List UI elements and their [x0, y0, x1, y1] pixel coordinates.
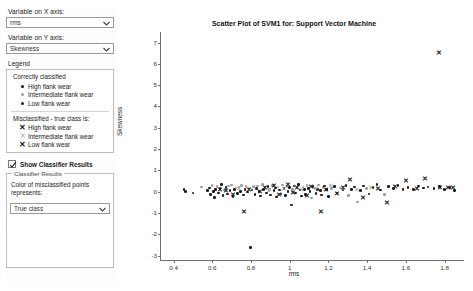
axis-line	[158, 64, 161, 65]
x-tick-label: 1	[280, 264, 300, 271]
data-point-x: ✕	[217, 187, 223, 194]
axis-line	[158, 234, 161, 235]
x-tick-label: 0.4	[164, 264, 184, 271]
data-point-dot	[315, 192, 318, 195]
data-point-x: ✕	[318, 209, 324, 216]
data-point-x: ✕	[392, 184, 398, 191]
y-tick-label: -2	[144, 230, 157, 237]
axis-line	[445, 260, 446, 263]
data-point-dot	[211, 184, 214, 187]
y-tick-label: -1	[144, 209, 157, 216]
show-classifier-results-checkbox[interactable]: Show Classifier Results	[8, 160, 117, 168]
y-tick-label: -3	[144, 252, 157, 259]
data-point-dot	[422, 187, 425, 190]
data-point-x: ✕	[450, 185, 456, 192]
data-point-x: ✕	[230, 192, 236, 199]
data-point-dot	[383, 193, 386, 196]
x-axis-value: rms	[7, 19, 21, 26]
chevron-down-icon	[102, 44, 111, 55]
y-tick-label: 5	[144, 81, 157, 88]
legend-item: Intermediate flank wear	[17, 91, 113, 100]
data-point-dot	[249, 246, 252, 249]
data-point-x: ✕	[313, 186, 319, 193]
axis-line	[160, 260, 464, 261]
data-point-x: ✕	[271, 183, 277, 190]
data-point-dot	[184, 190, 187, 193]
data-point-x: ✕	[334, 191, 340, 198]
dot-dark-icon	[17, 82, 28, 90]
data-point-dot	[407, 186, 410, 189]
y-tick-label: 3	[144, 124, 157, 131]
axis-line	[212, 260, 213, 263]
data-point-x: ✕	[368, 185, 374, 192]
data-point-dot	[220, 183, 223, 186]
legend-item-label: Low flank wear	[28, 100, 70, 107]
axis-line	[367, 260, 368, 263]
legend-correct-heading: Correctly classified	[13, 73, 113, 80]
data-point-x: ✕	[328, 183, 334, 190]
data-point-dot	[206, 189, 209, 192]
data-point-dot	[242, 194, 245, 197]
y-tick-label: 1	[144, 166, 157, 173]
controls-sidebar: Variable on X axis: rms Variable on Y ax…	[6, 8, 117, 285]
axis-line	[158, 213, 161, 214]
data-point-x: ✕	[340, 185, 346, 192]
y-tick-label: 2	[144, 145, 157, 152]
axis-line	[158, 256, 161, 257]
y-tick-label: 6	[144, 60, 157, 67]
data-point-x: ✕	[437, 185, 443, 192]
x-dark-icon: ✕	[17, 141, 28, 149]
x-axis-label: Variable on X axis:	[8, 8, 117, 15]
y-axis-select[interactable]: Skewness	[6, 43, 114, 54]
dot-gray-icon	[17, 91, 28, 99]
data-point-x: ✕	[403, 178, 409, 185]
legend-item-label: High flank wear	[28, 124, 71, 131]
scatter-plot-panel: Scatter Plot of SVM1 for: Support Vector…	[120, 8, 468, 285]
y-tick-label: 0	[144, 188, 157, 195]
y-axis-label: Variable on Y axis:	[8, 34, 117, 41]
legend-item-label: High flank wear	[28, 83, 71, 90]
data-point-dot	[200, 186, 203, 189]
legend-item: High flank wear	[17, 82, 113, 91]
data-point-x: ✕	[436, 50, 442, 57]
data-point-dot	[347, 194, 350, 197]
x-tick-label: 0.8	[241, 264, 261, 271]
axis-line	[158, 192, 161, 193]
plot-axes: -3-2-1012345670.40.60.811.21.41.61.8✕✕✕✕…	[120, 8, 468, 285]
axis-line	[328, 260, 329, 263]
axis-line	[290, 260, 291, 263]
dot-dark-icon	[17, 99, 28, 107]
data-point-x: ✕	[304, 193, 310, 200]
x-tick-label: 1.8	[435, 264, 455, 271]
axis-line	[174, 260, 175, 263]
chevron-down-icon	[98, 204, 107, 215]
x-tick-label: 1.6	[396, 264, 416, 271]
legend-item: Low flank wear	[17, 99, 113, 108]
data-point-dot	[387, 185, 390, 188]
data-point-x: ✕	[384, 200, 390, 207]
data-point-dot	[300, 195, 303, 198]
classifier-results-description: Color of misclassified points represents…	[11, 181, 109, 197]
data-point-dot	[427, 186, 430, 189]
axis-line	[158, 85, 161, 86]
data-point-x: ✕	[241, 209, 247, 216]
data-point-x: ✕	[375, 186, 381, 193]
data-point-dot	[208, 187, 211, 190]
y-axis-value: Skewness	[7, 45, 39, 52]
data-point-dot	[356, 201, 359, 204]
legend-item: ✕ High flank wear	[17, 124, 113, 133]
axis-line	[158, 128, 161, 129]
data-point-dot	[368, 193, 371, 196]
legend-item-label: Low flank wear	[28, 141, 70, 148]
data-point-x: ✕	[285, 182, 291, 189]
data-point-x: ✕	[223, 188, 229, 195]
x-dark-icon: ✕	[17, 124, 28, 132]
x-axis-select[interactable]: rms	[6, 17, 114, 28]
data-point-x: ✕	[236, 186, 242, 193]
data-point-x: ✕	[290, 190, 296, 197]
data-point-dot	[209, 193, 212, 196]
y-tick-label: 4	[144, 102, 157, 109]
classifier-results-group: Classifier Results Color of misclassifie…	[6, 173, 114, 268]
x-tick-label: 1.2	[318, 264, 338, 271]
misclassified-color-select[interactable]: True class	[10, 203, 110, 214]
